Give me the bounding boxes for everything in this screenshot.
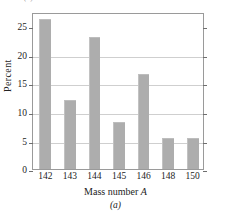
y-axis-tick <box>29 171 33 172</box>
y-axis-tick-right <box>203 171 207 172</box>
bars-group <box>33 14 203 169</box>
x-axis-tick-label: 150 <box>186 172 200 182</box>
y-axis-tick-right <box>203 143 207 144</box>
x-axis-tick-label: 145 <box>112 172 126 182</box>
bar <box>138 74 150 169</box>
clipped-top-text: table (b). <box>6 0 36 2</box>
x-axis-tick-label: 146 <box>136 172 150 182</box>
x-axis-tick-label: 144 <box>87 172 101 182</box>
x-axis-tick-label: 142 <box>38 172 52 182</box>
bar <box>113 122 125 169</box>
y-axis-tick-label: 15 <box>18 81 28 91</box>
y-axis-title: Percent <box>2 59 13 92</box>
x-axis-title: Mass number A <box>0 186 231 197</box>
x-axis-title-text: Mass number <box>84 186 138 197</box>
y-axis-tick-right <box>203 114 207 115</box>
y-axis-tick-right <box>203 85 207 86</box>
figure-caption: (a) <box>0 200 231 210</box>
bar <box>39 19 51 169</box>
bar <box>162 138 174 169</box>
y-axis-tick-label: 25 <box>18 24 28 34</box>
bar <box>89 37 101 170</box>
y-axis-tick-label: 20 <box>18 52 28 62</box>
plot-area: 0510152025 142143144145146148150 <box>32 13 204 170</box>
bar <box>187 138 199 169</box>
x-axis-title-symbol: A <box>141 186 147 197</box>
y-axis-tick-label: 10 <box>18 109 28 119</box>
x-axis-tick-label: 143 <box>63 172 77 182</box>
x-axis-tick-label: 148 <box>161 172 175 182</box>
figure-root: table (b). Percent 0510152025 1421431441… <box>0 0 231 215</box>
y-axis-tick-right <box>203 57 207 58</box>
y-axis-tick-right <box>203 28 207 29</box>
y-axis-tick-label: 5 <box>22 138 27 148</box>
y-axis-tick-label: 0 <box>22 166 27 176</box>
bar <box>64 100 76 169</box>
